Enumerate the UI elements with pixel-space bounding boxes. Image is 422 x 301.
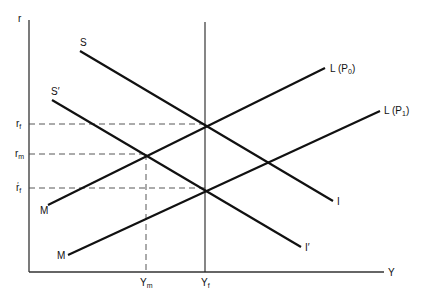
is-lm-diagram: r Y S I S′ I′ M M L (P0) L (P1) rf rm rf… bbox=[0, 0, 422, 301]
y-axis-label: r bbox=[18, 13, 22, 24]
label-l-p0-base: L (P bbox=[330, 63, 348, 74]
tick-rm-sub: m bbox=[18, 153, 24, 160]
label-l-p1-close: ) bbox=[406, 105, 409, 116]
label-i-prime: I′ bbox=[305, 242, 310, 253]
x-axis-label: Y bbox=[388, 267, 395, 278]
label-l-p1-base: L (P bbox=[384, 105, 402, 116]
label-l-p0-close: ) bbox=[352, 63, 355, 74]
curve-m-l-p0 bbox=[48, 68, 325, 205]
tick-yf: Yf bbox=[201, 277, 210, 289]
tick-ym-sub: m bbox=[147, 282, 153, 289]
curve-s-prime-i-prime bbox=[52, 100, 301, 247]
label-i: I bbox=[337, 196, 340, 207]
label-m-lower: M bbox=[57, 250, 65, 261]
tick-rf-prime-sub: f bbox=[19, 187, 21, 194]
label-s: S bbox=[80, 37, 87, 48]
tick-rm: rm bbox=[15, 148, 24, 160]
tick-rf-prime: rf′ bbox=[16, 181, 21, 194]
tick-yf-sub: f bbox=[208, 282, 210, 289]
label-m-upper: M bbox=[40, 205, 48, 216]
tick-rf: rf bbox=[16, 118, 21, 130]
tick-rf-sub: f bbox=[19, 123, 21, 130]
label-s-prime: S′ bbox=[51, 86, 60, 97]
label-l-p0: L (P0) bbox=[330, 63, 355, 75]
curve-m-l-p1 bbox=[68, 111, 380, 255]
label-l-p1: L (P1) bbox=[384, 105, 409, 117]
tick-ym: Ym bbox=[140, 277, 153, 289]
